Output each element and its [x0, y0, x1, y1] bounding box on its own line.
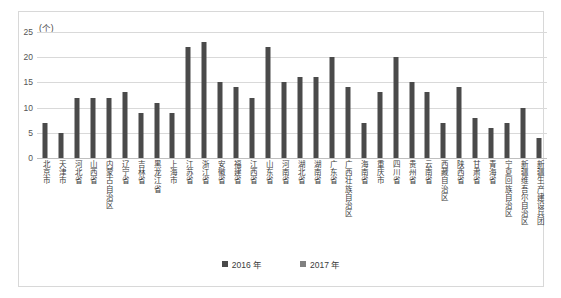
legend-label: 2017 年 — [310, 258, 340, 270]
bar[interactable] — [282, 82, 287, 158]
bar[interactable] — [42, 123, 47, 158]
bar[interactable] — [138, 113, 143, 158]
x-axis-label: 贵州省 — [407, 160, 415, 185]
bar[interactable] — [250, 98, 255, 158]
bar[interactable] — [74, 98, 79, 158]
legend-swatch-icon — [300, 261, 306, 267]
x-axis-label: 新疆生产建设兵团 — [535, 160, 543, 226]
bar[interactable] — [393, 57, 398, 158]
bar[interactable] — [218, 82, 223, 158]
bar-slot — [180, 32, 196, 158]
x-axis-label: 广西壮族自治区 — [344, 160, 352, 217]
bar[interactable] — [170, 113, 175, 158]
bar[interactable] — [122, 92, 127, 158]
x-axis-label: 河南省 — [280, 160, 288, 185]
bar[interactable] — [90, 98, 95, 158]
bar[interactable] — [377, 92, 382, 158]
x-axis-label-slot: 天津市 — [53, 160, 69, 189]
x-axis-label-slot: 云南省 — [420, 160, 436, 189]
chart-container: (个) 0510152025 北京市天津市河北省山西省内蒙古自治区辽宁省吉林省黑… — [18, 11, 544, 287]
x-axis-label: 吉林省 — [136, 160, 144, 185]
x-axis-label-slot: 陕西省 — [451, 160, 467, 189]
bar-slot — [499, 32, 515, 158]
x-axis-label-slot: 青海省 — [483, 160, 499, 189]
bar[interactable] — [154, 103, 159, 158]
x-axis-label: 湖北省 — [296, 160, 304, 185]
bar[interactable] — [58, 133, 63, 158]
x-axis-label-slot: 辽宁省 — [117, 160, 133, 189]
x-axis-label: 青海省 — [487, 160, 495, 185]
bar[interactable] — [441, 123, 446, 158]
bar[interactable] — [457, 87, 462, 158]
bar[interactable] — [537, 138, 542, 158]
bar[interactable] — [297, 77, 302, 158]
x-axis-label: 新疆维吾尔自治区 — [519, 160, 527, 226]
x-axis-label: 内蒙古自治区 — [105, 160, 113, 209]
bar-slot — [101, 32, 117, 158]
x-axis-label: 湖南省 — [312, 160, 320, 185]
bar[interactable] — [345, 87, 350, 158]
bar-slot — [228, 32, 244, 158]
bar[interactable] — [409, 82, 414, 158]
bar-slot — [420, 32, 436, 158]
bar[interactable] — [186, 47, 191, 158]
legend-item[interactable]: 2016 年 — [222, 258, 262, 270]
x-axis-label-slot: 四川省 — [388, 160, 404, 189]
bar[interactable] — [425, 92, 430, 158]
x-axis-label-slot: 西藏自治区 — [435, 160, 451, 205]
bar-slot — [133, 32, 149, 158]
y-axis-tick-label: 5 — [28, 128, 33, 138]
bar-slot — [276, 32, 292, 158]
bar[interactable] — [361, 123, 366, 158]
bar[interactable] — [329, 57, 334, 158]
bar-series-group — [37, 32, 547, 158]
bar[interactable] — [202, 42, 207, 158]
bar[interactable] — [473, 118, 478, 158]
legend-swatch-icon — [222, 261, 228, 267]
bar-slot — [196, 32, 212, 158]
bar[interactable] — [234, 87, 239, 158]
bar-slot — [340, 32, 356, 158]
bar[interactable] — [489, 128, 494, 158]
bar[interactable] — [313, 77, 318, 158]
bar-slot — [467, 32, 483, 158]
gridline — [37, 158, 547, 159]
x-axis-label-slot: 新疆生产建设兵团 — [531, 160, 547, 230]
x-axis-label-slot: 北京市 — [37, 160, 53, 189]
bar-slot — [451, 32, 467, 158]
x-axis-label: 宁夏回族自治区 — [503, 160, 511, 217]
bar-slot — [372, 32, 388, 158]
bar[interactable] — [521, 108, 526, 158]
x-axis-label-slot: 江西省 — [244, 160, 260, 189]
bar[interactable] — [266, 47, 271, 158]
legend-label: 2016 年 — [232, 258, 262, 270]
bar-slot — [531, 32, 547, 158]
bar-slot — [85, 32, 101, 158]
x-axis-label: 天津市 — [57, 160, 65, 185]
y-axis-tick-label: 15 — [24, 77, 33, 87]
x-axis-label: 安徽省 — [216, 160, 224, 185]
x-axis-label: 黑龙江省 — [152, 160, 160, 193]
bar-slot — [69, 32, 85, 158]
x-axis-label-slot: 福建省 — [228, 160, 244, 189]
x-axis-label: 福建省 — [232, 160, 240, 185]
x-axis-label: 重庆市 — [375, 160, 383, 185]
x-axis-label-slot: 山东省 — [260, 160, 276, 189]
x-axis-label-slot: 江苏省 — [180, 160, 196, 189]
bar-slot — [212, 32, 228, 158]
bar[interactable] — [505, 123, 510, 158]
legend-item[interactable]: 2017 年 — [300, 258, 340, 270]
x-axis-label: 海南省 — [360, 160, 368, 185]
x-axis-label-slot: 宁夏回族自治区 — [499, 160, 515, 221]
x-axis-label: 山东省 — [264, 160, 272, 185]
x-axis-label: 山西省 — [89, 160, 97, 185]
bar-slot — [483, 32, 499, 158]
bar-slot — [37, 32, 53, 158]
x-axis-label-slot: 重庆市 — [372, 160, 388, 189]
x-axis-label-slot: 上海市 — [165, 160, 181, 189]
bar[interactable] — [106, 98, 111, 158]
bar-slot — [435, 32, 451, 158]
x-axis-label: 江苏省 — [184, 160, 192, 185]
x-axis-label-slot: 湖南省 — [308, 160, 324, 189]
x-axis-label-slot: 广西壮族自治区 — [340, 160, 356, 221]
